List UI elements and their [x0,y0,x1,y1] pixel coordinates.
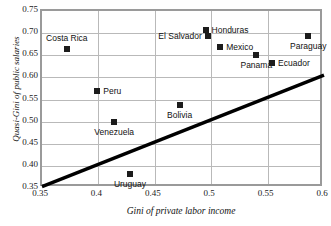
data-point-marker [177,102,183,108]
data-point-label: Costa Rica [46,34,88,43]
data-point-marker [203,27,209,33]
x-tick-label: 0.5 [204,188,215,198]
y-tick-label: 0.75 [2,4,38,14]
data-point-marker [305,33,311,39]
data-point-marker [64,46,70,52]
data-point-label: Honduras [212,25,249,34]
data-point-label: El Salvador [158,32,201,41]
x-tick-label: 0.55 [258,188,274,198]
data-point-marker [127,171,133,177]
x-axis-tick-labels: 0.350.40.450.50.550.6 [40,188,322,202]
data-point-label: Paraguay [290,42,326,51]
data-point-label: Peru [103,87,121,96]
data-point-label: Panama [240,61,272,70]
data-point-marker [205,33,211,39]
x-tick-label: 0.45 [145,188,161,198]
data-point-marker [111,119,117,125]
plot-area: Costa RicaHondurasEl SalvadorMexicoParag… [40,9,322,186]
data-point-label: Venezuela [94,128,134,137]
x-axis-title: Gini of private labor income [40,206,322,216]
x-tick-label: 0.6 [316,188,327,198]
data-point-marker [217,44,223,50]
y-axis-title: Quasi-Gini of public salaries [11,14,21,164]
data-point-label: Ecuador [278,58,310,67]
data-point-label: Mexico [226,42,253,51]
data-point-label: Bolivia [167,111,192,120]
scatter-chart: 0.350.400.450.500.550.600.650.700.75 Cos… [0,0,331,226]
x-tick-label: 0.35 [32,188,48,198]
data-point-marker [253,52,259,58]
data-point-marker [269,60,275,66]
x-tick-label: 0.4 [91,188,102,198]
data-point-marker [94,88,100,94]
